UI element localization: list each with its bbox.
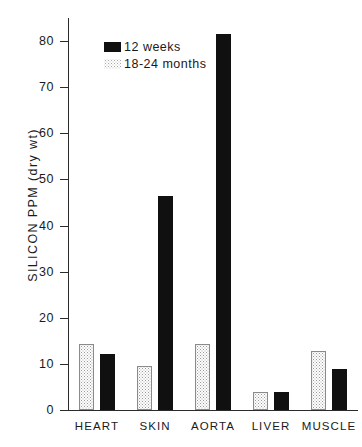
legend-swatch-solid-icon bbox=[104, 42, 121, 52]
bar-muscle-18-24-months bbox=[311, 351, 326, 410]
y-axis-title: SILICON PPM (dry wt) bbox=[26, 80, 40, 330]
y-tick-50 bbox=[60, 179, 68, 180]
y-tick-30 bbox=[60, 272, 68, 273]
bar-aorta-12-weeks bbox=[216, 34, 231, 410]
y-tick-label-0: 0 bbox=[14, 403, 54, 417]
y-tick-label-80: 80 bbox=[14, 34, 54, 48]
bar-heart-12-weeks bbox=[100, 354, 115, 410]
bar-muscle-12-weeks bbox=[332, 369, 347, 411]
x-axis-line bbox=[68, 410, 358, 411]
y-tick-40 bbox=[60, 226, 68, 227]
y-tick-label-70: 70 bbox=[14, 80, 54, 94]
y-tick-10 bbox=[60, 364, 68, 365]
bar-aorta-18-24-months bbox=[195, 344, 210, 410]
bar-skin-12-weeks bbox=[158, 196, 173, 410]
plot-area bbox=[68, 18, 358, 410]
bar-heart-18-24-months bbox=[79, 344, 94, 410]
y-tick-label-60: 60 bbox=[14, 126, 54, 140]
legend-swatch-stipple-icon bbox=[104, 59, 121, 69]
bar-liver-12-weeks bbox=[274, 392, 289, 410]
y-tick-label-10: 10 bbox=[14, 357, 54, 371]
y-tick-label-40: 40 bbox=[14, 219, 54, 233]
legend-label-0: 12 weeks bbox=[124, 40, 181, 54]
legend-label-1: 18-24 months bbox=[124, 57, 206, 71]
y-tick-60 bbox=[60, 133, 68, 134]
legend-item-0: 12 weeks bbox=[104, 38, 206, 55]
legend: 12 weeks 18-24 months bbox=[104, 38, 206, 72]
bar-liver-18-24-months bbox=[253, 392, 268, 410]
y-tick-label-50: 50 bbox=[14, 172, 54, 186]
y-tick-80 bbox=[60, 41, 68, 42]
silicon-ppm-bar-chart: SILICON PPM (dry wt) 01020304050607080 H… bbox=[0, 0, 362, 447]
legend-item-1: 18-24 months bbox=[104, 55, 206, 72]
bar-skin-18-24-months bbox=[137, 366, 152, 410]
y-tick-0 bbox=[60, 410, 68, 411]
y-tick-label-20: 20 bbox=[14, 311, 54, 325]
x-label-muscle: MUSCLE bbox=[289, 420, 362, 432]
y-tick-label-30: 30 bbox=[14, 265, 54, 279]
y-tick-70 bbox=[60, 87, 68, 88]
y-tick-20 bbox=[60, 318, 68, 319]
